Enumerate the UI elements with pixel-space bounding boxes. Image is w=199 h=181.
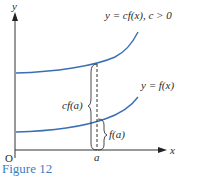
x-axis-arrow-icon [158, 147, 167, 153]
x-axis-label: x [169, 144, 175, 156]
f-a-label: f(a) [109, 128, 125, 141]
figure-graph: y x O a y = cf(x), c > 0 y = f(x) cf(a) … [0, 0, 199, 181]
brace-f-icon [98, 119, 107, 150]
curve-cf [16, 32, 138, 73]
x-tick-a: a [94, 151, 100, 163]
curve-cf-label: y = cf(x), c > 0 [104, 9, 172, 22]
figure-caption: Figure 12 [2, 161, 52, 177]
y-axis-label: y [11, 0, 17, 12]
cf-a-label: cf(a) [62, 99, 83, 112]
y-axis-arrow-icon [12, 12, 18, 21]
brace-cf-icon [88, 64, 97, 150]
curve-f-label: y = f(x) [140, 79, 174, 92]
